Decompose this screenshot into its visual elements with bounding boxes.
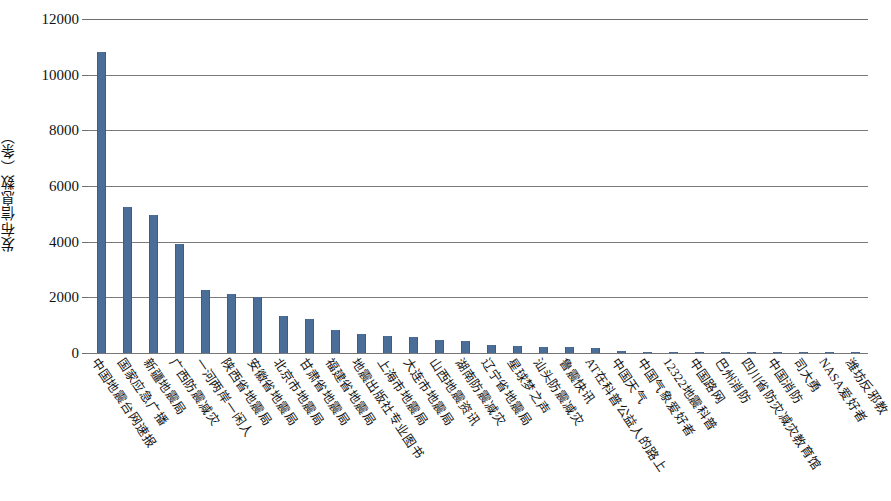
- bar: [409, 337, 418, 353]
- y-axis-tick-label: 6000: [49, 178, 79, 195]
- bar: [175, 244, 184, 353]
- bar-series: [88, 19, 868, 353]
- bar: [201, 290, 210, 353]
- y-axis-title: 发布信息数（条）: [2, 80, 28, 300]
- bar: [253, 297, 262, 353]
- y-axis-tick-label: 8000: [49, 122, 79, 139]
- bar: [331, 330, 340, 353]
- y-axis-tick-label: 12000: [42, 11, 80, 28]
- bar: [383, 336, 392, 353]
- y-axis-tick-label: 10000: [42, 66, 80, 83]
- y-axis-tick-label: 4000: [49, 233, 79, 250]
- y-axis-tick-label: 2000: [49, 289, 79, 306]
- bar: [305, 319, 314, 353]
- x-axis-line: [86, 353, 868, 355]
- bar: [123, 207, 132, 353]
- bar: [357, 334, 366, 353]
- x-axis-tick-labels: 中国地震台网速报国家应急广播新疆地震局广西防震减灾一河两岸一闲人陕西省地震局安徽…: [88, 356, 868, 501]
- bar: [435, 340, 444, 353]
- plot-area: 020004000600080001000012000: [88, 19, 868, 353]
- bar: [97, 52, 106, 353]
- bar: [149, 215, 158, 353]
- y-axis-tick-label: 0: [72, 345, 80, 362]
- bar: [227, 294, 236, 353]
- bar: [279, 316, 288, 353]
- bar: [461, 341, 470, 353]
